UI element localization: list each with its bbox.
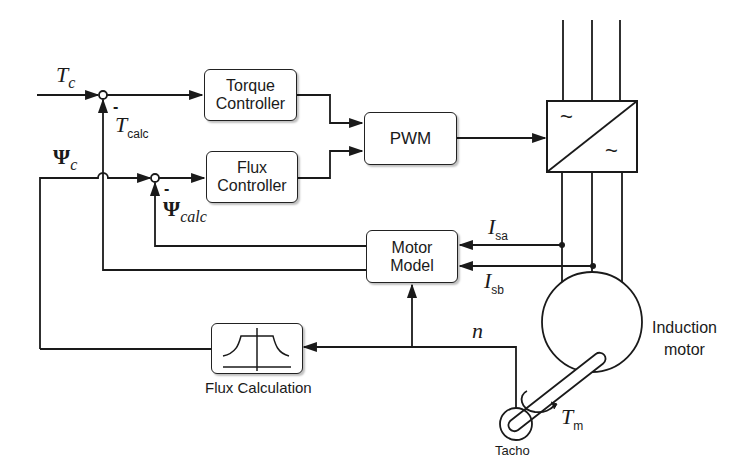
torque-summing-junction: [99, 91, 107, 99]
motor-shaft: [506, 350, 608, 433]
torque-ref-label: Tc: [56, 62, 75, 88]
flux-calculation-block: [211, 323, 303, 374]
flux-controller-label-2: Controller: [217, 177, 286, 195]
pwm-block: PWM: [364, 112, 457, 165]
motor-model-label-1: Motor: [392, 239, 433, 257]
flux-weakening-curve-icon: [211, 323, 303, 374]
isb-label: Isb: [484, 268, 504, 294]
tacho-label: Tacho: [495, 443, 530, 458]
torque-controller-block: Torque Controller: [204, 69, 297, 121]
motor-model-block: Motor Model: [366, 230, 458, 283]
flux-ref-label: Ψc: [53, 144, 77, 170]
induction-motor-label-1: Induction: [652, 317, 717, 339]
torque-to-pwm-wire: [297, 95, 362, 123]
motor-model-label-2: Model: [390, 257, 434, 275]
flux-controller-block: Flux Controller: [206, 151, 298, 203]
flux-ref-wire: [40, 173, 150, 349]
flux-controller-label-1: Flux: [237, 159, 267, 177]
converter-ac-out-symbol: ~: [605, 138, 618, 164]
pwm-label: PWM: [390, 130, 432, 148]
flux-calculation-label: Flux Calculation: [205, 378, 312, 397]
induction-motor-label-2: motor: [652, 339, 717, 361]
torque-controller-label-2: Controller: [216, 95, 285, 113]
flux-calc-label: Ψcalc: [163, 196, 207, 222]
speed-wire: [304, 347, 516, 408]
flux-summing-junction: [151, 174, 159, 182]
speed-label: n: [472, 318, 483, 344]
torque-controller-label-1: Torque: [226, 77, 275, 95]
load-torque-label: Tm: [561, 404, 583, 430]
torque-calc-label: Tcalc: [115, 112, 149, 138]
flux-to-pwm-wire: [298, 151, 362, 178]
induction-motor-label: Induction motor: [652, 317, 717, 361]
isa-label: Isa: [488, 214, 508, 240]
converter-ac-in-symbol: ~: [560, 104, 573, 130]
